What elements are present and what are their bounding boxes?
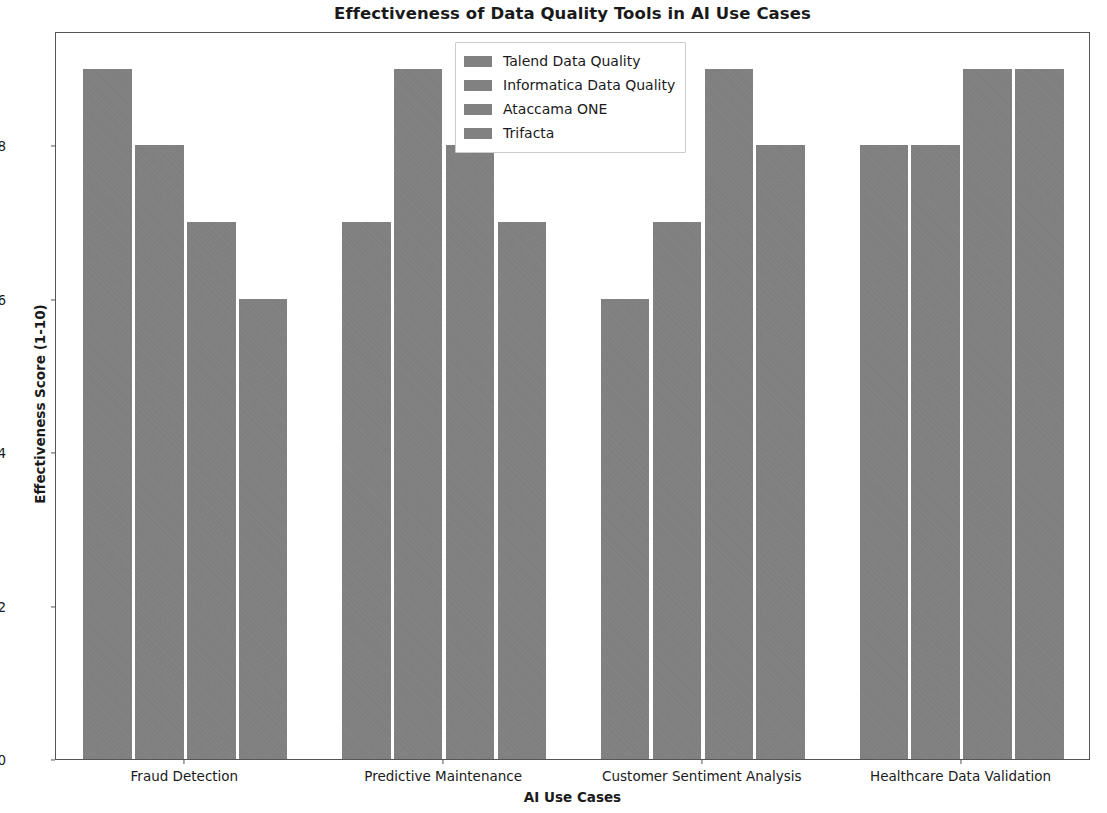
bar	[911, 145, 960, 759]
legend-item: Ataccama ONE	[464, 97, 675, 121]
legend-item: Informatica Data Quality	[464, 73, 675, 97]
legend-item: Talend Data Quality	[464, 49, 675, 73]
x-tick-mark	[960, 760, 961, 764]
y-tick-label: 2	[0, 599, 6, 615]
bar	[83, 69, 132, 759]
x-tick-label: Customer Sentiment Analysis	[552, 768, 852, 784]
bar	[342, 222, 391, 759]
y-tick-label: 4	[0, 445, 6, 461]
bar	[653, 222, 702, 759]
bar	[135, 145, 184, 759]
legend-item-label: Ataccama ONE	[503, 101, 607, 117]
x-axis-label: AI Use Cases	[55, 789, 1090, 805]
bar	[394, 69, 443, 759]
legend-swatch-icon	[464, 80, 492, 91]
x-tick-mark	[443, 760, 444, 764]
legend-swatch-icon	[464, 128, 492, 139]
bar	[860, 145, 909, 759]
bar	[756, 145, 805, 759]
x-tick-label: Predictive Maintenance	[293, 768, 593, 784]
bar	[601, 299, 650, 759]
bar	[1015, 69, 1064, 759]
bar	[187, 222, 236, 759]
legend-swatch-icon	[464, 104, 492, 115]
chart-figure: Effectiveness of Data Quality Tools in A…	[0, 0, 1107, 813]
y-axis-label: Effectiveness Score (1-10)	[32, 40, 48, 768]
y-tick-label: 6	[0, 292, 6, 308]
y-tick-label: 8	[0, 138, 6, 154]
legend-swatch-icon	[464, 56, 492, 67]
legend-item-label: Informatica Data Quality	[503, 77, 675, 93]
bar	[963, 69, 1012, 759]
x-tick-label: Healthcare Data Validation	[811, 768, 1107, 784]
x-tick-mark	[701, 760, 702, 764]
legend-item: Trifacta	[464, 121, 675, 145]
bar	[239, 299, 288, 759]
bar	[498, 222, 547, 759]
chart-title: Effectiveness of Data Quality Tools in A…	[55, 4, 1090, 23]
chart-legend: Talend Data QualityInformatica Data Qual…	[455, 42, 686, 153]
x-tick-mark	[184, 760, 185, 764]
y-tick-label: 0	[0, 752, 6, 768]
legend-item-label: Trifacta	[503, 125, 554, 141]
bar	[705, 69, 754, 759]
bar	[446, 145, 495, 759]
legend-item-label: Talend Data Quality	[503, 53, 640, 69]
x-tick-label: Fraud Detection	[34, 768, 334, 784]
